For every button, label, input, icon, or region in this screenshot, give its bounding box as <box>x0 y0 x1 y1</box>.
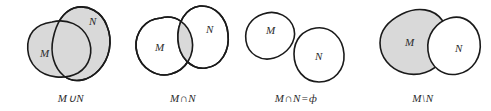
set-diagrams-figure: M N M∪N M N M∩N <box>0 0 491 111</box>
set-n-label: N <box>205 23 214 35</box>
set-n-shape <box>428 17 481 74</box>
set-m-label: M <box>154 41 165 53</box>
difference-illustration: M N <box>358 0 488 90</box>
set-n-label: N <box>314 50 323 62</box>
set-m-label: M <box>404 36 415 48</box>
set-m-shape <box>28 21 91 77</box>
intersection-illustration: M N <box>128 0 238 90</box>
diagram-disjoint: M N M∩N=ф <box>238 0 354 111</box>
caption-intersection: M∩N <box>128 92 238 104</box>
diagram-difference: M N M\N <box>358 0 488 111</box>
diagram-intersection: M N M∩N <box>128 0 238 111</box>
caption-difference: M\N <box>358 92 488 104</box>
set-n-label: N <box>454 42 463 54</box>
disjoint-illustration: M N <box>238 0 354 90</box>
union-illustration: M N <box>12 0 130 90</box>
set-m-label: M <box>265 24 276 36</box>
diagram-union: M N M∪N <box>12 0 130 111</box>
caption-disjoint: M∩N=ф <box>238 92 354 104</box>
set-m-label: M <box>39 47 50 59</box>
caption-union: M∪N <box>12 92 130 105</box>
set-n-label: N <box>88 15 97 27</box>
